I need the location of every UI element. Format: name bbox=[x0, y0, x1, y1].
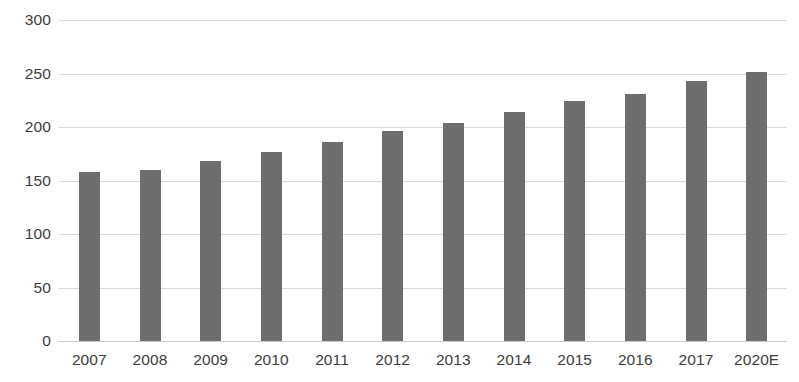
bar-chart: 050100150200250300 200720082009201020112… bbox=[0, 0, 799, 382]
x-axis: 2007200820092010201120122013201420152016… bbox=[59, 352, 787, 378]
plot-area bbox=[59, 20, 787, 341]
x-tick-label: 2010 bbox=[254, 352, 289, 368]
bar-2009[interactable] bbox=[200, 161, 221, 341]
y-tick-label: 300 bbox=[3, 12, 51, 28]
bar-2015[interactable] bbox=[564, 101, 585, 341]
y-tick-label: 100 bbox=[3, 226, 51, 242]
bar-2007[interactable] bbox=[79, 172, 100, 341]
gridline-0 bbox=[59, 341, 787, 342]
x-tick-label: 2008 bbox=[133, 352, 168, 368]
x-tick-label: 2020E bbox=[734, 352, 779, 368]
bar-2020E[interactable] bbox=[746, 72, 767, 341]
x-tick-label: 2007 bbox=[72, 352, 107, 368]
x-tick-label: 2014 bbox=[497, 352, 532, 368]
x-tick-label: 2017 bbox=[679, 352, 714, 368]
x-tick-label: 2009 bbox=[193, 352, 228, 368]
bar-2010[interactable] bbox=[261, 152, 282, 341]
y-tick-label: 50 bbox=[3, 280, 51, 296]
x-tick-label: 2012 bbox=[375, 352, 410, 368]
x-tick-label: 2011 bbox=[315, 352, 349, 368]
bar-2014[interactable] bbox=[504, 112, 525, 341]
y-tick-label: 250 bbox=[3, 66, 51, 82]
bar-2008[interactable] bbox=[140, 170, 161, 341]
bar-2016[interactable] bbox=[625, 94, 646, 341]
x-tick-label: 2013 bbox=[436, 352, 471, 368]
y-tick-label: 0 bbox=[3, 333, 51, 349]
y-axis: 050100150200250300 bbox=[0, 20, 51, 341]
bar-2011[interactable] bbox=[322, 142, 343, 341]
x-tick-label: 2015 bbox=[557, 352, 592, 368]
y-tick-label: 200 bbox=[3, 119, 51, 135]
bar-2017[interactable] bbox=[686, 81, 707, 341]
bars bbox=[59, 20, 787, 341]
x-tick-label: 2016 bbox=[618, 352, 653, 368]
y-tick-label: 150 bbox=[3, 173, 51, 189]
bar-2013[interactable] bbox=[443, 123, 464, 341]
bar-2012[interactable] bbox=[382, 131, 403, 341]
